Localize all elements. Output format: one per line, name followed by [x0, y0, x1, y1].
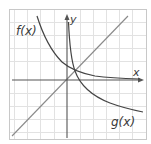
label-g: g(x) [111, 115, 135, 129]
label-x-axis: x [132, 66, 140, 79]
function-graph: f(x) g(x) x y [0, 0, 151, 144]
label-y-axis: y [69, 13, 77, 26]
label-f: f(x) [16, 24, 37, 38]
